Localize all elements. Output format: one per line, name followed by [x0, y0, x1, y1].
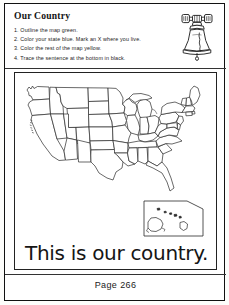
header-divider: [5, 68, 226, 69]
page-number: Page 266: [5, 280, 226, 290]
instruction-item-4: 4. Trace the sentence at the bottom in b…: [14, 54, 164, 63]
page-title: Our Country: [14, 10, 70, 21]
footer-divider: [5, 274, 226, 275]
trace-sentence: This is our country.: [15, 241, 217, 265]
map-container: This is our country.: [14, 72, 217, 270]
alaska-hawaii-inset: [143, 195, 209, 238]
instruction-item-1: 1. Outline the map green.: [14, 26, 164, 35]
liberty-bell-icon: [168, 8, 226, 66]
instruction-item-3: 3. Color the rest of the map yellow.: [14, 44, 164, 53]
instruction-item-2: 2. Color your state blue. Mark an X wher…: [14, 35, 164, 44]
page-border: Our Country 1. Outline the map green. 2.…: [4, 3, 225, 301]
worksheet-page: Our Country 1. Outline the map green. 2.…: [0, 0, 229, 305]
instruction-list: 1. Outline the map green. 2. Color your …: [14, 26, 164, 63]
